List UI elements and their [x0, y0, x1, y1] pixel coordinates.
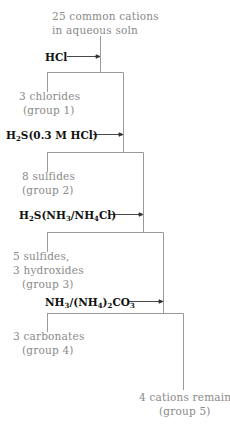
reagent-h2s-acidic: H2S(0.3 M HCl) — [6, 129, 98, 141]
start-label-line2: in aqueous soln — [52, 23, 138, 37]
reagent-h2s-basic: H2S(NH3/NH4Cl) — [19, 209, 116, 221]
group4-label-line2: (group 4) — [22, 343, 74, 357]
reagent-ammonium-carbonate: NH3/(NH4)2CO3 — [45, 296, 135, 308]
reagent-hcl: HCl — [45, 51, 67, 63]
group3-label-line1: 5 sulfides, — [13, 249, 70, 263]
group3-label-line2: 3 hydroxides — [13, 263, 84, 277]
group1-label-line1: 3 chlorides — [19, 89, 80, 103]
group3-label-line3: (group 3) — [22, 277, 74, 291]
group5-label-line2: (group 5) — [159, 404, 211, 418]
group1-label-line2: (group 1) — [23, 103, 75, 117]
group2-label-line2: (group 2) — [22, 183, 74, 197]
group4-label-line1: 3 carbonates — [13, 329, 84, 343]
group5-label-line1: 4 cations remain — [139, 390, 230, 404]
start-label-line1: 25 common cations — [52, 9, 159, 23]
group2-label-line1: 8 sulfides — [22, 169, 75, 183]
